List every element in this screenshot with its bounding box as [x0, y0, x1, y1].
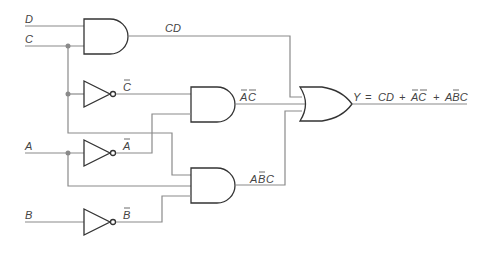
svg-text:Y: Y — [353, 91, 361, 103]
junction-c2 — [66, 92, 71, 97]
label-c-bar: C — [123, 81, 131, 93]
svg-text:ABC: ABC — [444, 91, 468, 103]
output-expression: Y = CD + AC + ABC — [353, 90, 468, 103]
and-gate-cd — [84, 19, 128, 54]
label-ac-bar: A C — [239, 90, 256, 103]
label-abc: A B C — [249, 172, 274, 185]
and-gate-ac — [191, 87, 235, 122]
label-d: D — [25, 13, 33, 25]
svg-text:+: + — [399, 91, 406, 103]
svg-text:C: C — [266, 173, 274, 185]
svg-text:=: = — [365, 91, 372, 103]
svg-text:CD: CD — [378, 91, 394, 103]
label-a-bar: A — [122, 140, 130, 152]
or-gate — [300, 87, 352, 121]
inversion-bubble-a — [111, 151, 116, 156]
logic-circuit-diagram: D C A B CD C A B A C A B C Y = CD + AC +… — [0, 0, 494, 254]
label-c: C — [25, 33, 33, 45]
junction-c — [66, 44, 71, 49]
label-b-bar: B — [123, 209, 130, 221]
label-cd: CD — [165, 22, 181, 34]
inversion-bubble-b — [111, 220, 116, 225]
svg-text:AC: AC — [410, 91, 426, 103]
svg-text:A: A — [249, 173, 257, 185]
and-gate-abc — [191, 168, 235, 203]
svg-text:+: + — [433, 91, 440, 103]
label-b: B — [25, 209, 32, 221]
not-gate-c — [84, 81, 110, 107]
svg-text:C: C — [248, 91, 256, 103]
not-gate-a — [84, 140, 110, 166]
svg-text:B: B — [258, 173, 265, 185]
label-a: A — [24, 140, 32, 152]
inversion-bubble-c — [111, 92, 116, 97]
not-gate-b — [84, 209, 110, 235]
svg-text:A: A — [239, 91, 247, 103]
